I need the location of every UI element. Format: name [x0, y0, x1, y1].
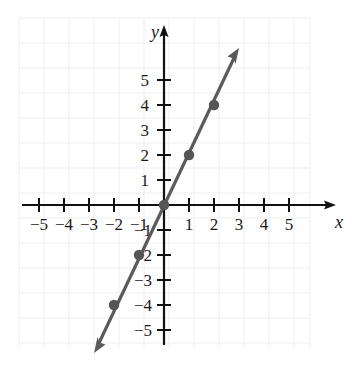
y-tick-label: −4	[134, 296, 153, 315]
y-tick-label: 1	[141, 171, 150, 190]
data-point	[209, 100, 219, 110]
x-tick-label: −5	[30, 215, 48, 234]
graph-figure: −5 −4 −3 −2 −1 1 2 3 4 5 5 4 3 2 1 −1 −2…	[0, 0, 352, 368]
data-point	[109, 300, 119, 310]
y-tick-label: 5	[141, 71, 150, 90]
x-tick-label: 3	[235, 215, 244, 234]
x-tick-label: 2	[210, 215, 219, 234]
y-tick-label: −3	[134, 271, 152, 290]
x-axis-label: x	[334, 212, 343, 232]
x-tick-label: 4	[260, 215, 269, 234]
x-tick-label: −4	[55, 215, 74, 234]
y-tick-label: −5	[134, 321, 152, 340]
data-point	[184, 150, 194, 160]
y-tick-label: 2	[141, 146, 150, 165]
x-tick-label: −3	[80, 215, 98, 234]
y-tick-label: 4	[141, 96, 150, 115]
x-tick-label: 5	[285, 215, 294, 234]
y-axis	[160, 25, 169, 345]
data-point	[134, 250, 144, 260]
coordinate-plane-svg: −5 −4 −3 −2 −1 1 2 3 4 5 5 4 3 2 1 −1 −2…	[0, 0, 352, 368]
y-axis-label: y	[149, 22, 159, 42]
x-tick-label: −2	[105, 215, 123, 234]
data-point	[159, 200, 169, 210]
x-tick-label: 1	[185, 215, 194, 234]
y-tick-label: 3	[141, 121, 150, 140]
